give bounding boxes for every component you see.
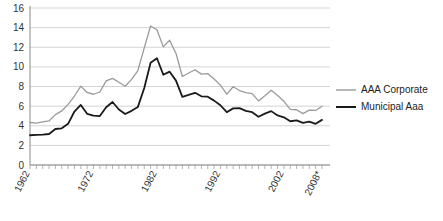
line-chart: 0246810121416 196219721982199220022008* …: [0, 0, 443, 221]
y-tick-label: 6: [18, 101, 24, 112]
legend-label: Municipal Aaa: [361, 101, 424, 112]
x-axis-tick-labels: 196219721982199220022008*: [12, 169, 324, 198]
x-tick-label: 1972: [75, 169, 95, 194]
series-line-aaa-corporate: [30, 26, 322, 123]
gridlines: [30, 8, 330, 165]
y-tick-label: 14: [13, 22, 25, 33]
y-tick-label: 12: [13, 42, 25, 53]
x-tick-label: 2002: [266, 169, 286, 194]
y-tick-label: 16: [13, 3, 25, 14]
chart-container: 0246810121416 196219721982199220022008* …: [0, 0, 443, 221]
chart-legend: AAA CorporateMunicipal Aaa: [336, 84, 428, 112]
y-tick-label: 10: [13, 61, 25, 72]
y-axis-tick-labels: 0246810121416: [13, 3, 25, 171]
y-tick-label: 8: [18, 81, 24, 92]
x-tick-label: 1992: [202, 169, 222, 194]
x-tick-label: 1982: [139, 169, 159, 194]
y-tick-label: 4: [18, 120, 24, 131]
x-tick-label: 1962: [12, 169, 32, 194]
x-axis-ticks: [30, 165, 322, 169]
x-tick-label: 2008*: [302, 169, 324, 197]
data-series-group: [30, 26, 322, 135]
y-tick-label: 2: [18, 140, 24, 151]
legend-label: AAA Corporate: [361, 84, 428, 95]
